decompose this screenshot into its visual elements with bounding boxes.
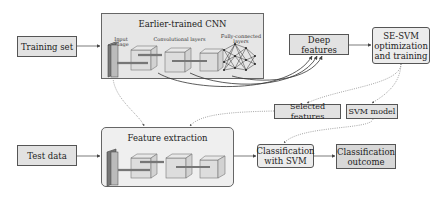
cnn-conv-layer-1-icon	[131, 46, 157, 70]
sesvm-line3: and training	[374, 51, 427, 61]
selected-features-box: Selected features	[274, 104, 341, 119]
classification-svm-line2: with SVM	[264, 156, 306, 166]
test-data-box: Test data	[17, 145, 77, 166]
classification-svm-line1: Classification	[257, 146, 315, 156]
fe-input-image-icon	[107, 149, 118, 186]
classification-svm-box: Classification with SVM	[257, 144, 314, 168]
classification-outcome-line1: Classification	[337, 147, 395, 157]
classification-outcome-line2: outcome	[348, 157, 385, 167]
deep-features-box: Deep features	[289, 34, 349, 55]
svm-model-box: SVM model	[346, 104, 398, 119]
sesvm-line1: SE-SVM	[383, 31, 419, 41]
training-set-box: Training set	[17, 36, 77, 57]
sesvm-box: SE-SVM optimization and training	[372, 27, 430, 64]
classification-outcome-box: Classification outcome	[336, 144, 396, 169]
cnn-fully-connected-icon	[224, 44, 255, 70]
fe-conv-layer-1-icon	[131, 154, 157, 178]
cnn-kernel-bars	[117, 55, 207, 63]
cnn-input-image-icon	[108, 42, 119, 77]
sesvm-line2: optimization	[374, 41, 428, 51]
